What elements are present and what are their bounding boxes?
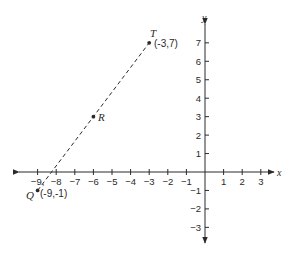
- x-tick-label: 1: [221, 176, 226, 187]
- y-tick-label: −2: [190, 203, 201, 214]
- x-tick-label: −2: [162, 176, 173, 187]
- x-tick-label: −6: [88, 176, 99, 187]
- x-tick-label: −3: [144, 176, 155, 187]
- y-tick-label: 3: [196, 111, 201, 122]
- y-ticks: −3−2−11234567: [190, 37, 209, 233]
- x-axis-label: x: [276, 167, 282, 178]
- x-tick-label: 3: [258, 176, 263, 187]
- x-tick-label: −7: [69, 176, 80, 187]
- point-q-coord: (-9,-1): [40, 188, 67, 199]
- point-r-dot: [92, 115, 96, 119]
- x-tick-label: 2: [240, 176, 245, 187]
- y-tick-label: 4: [196, 93, 201, 104]
- y-tick-label: 1: [196, 148, 201, 159]
- y-tick-label: 6: [196, 56, 201, 67]
- x-tick-label: −4: [125, 176, 136, 187]
- y-tick-label: 7: [196, 37, 201, 48]
- point-t-coord: (-3,7): [154, 38, 178, 49]
- coordinate-plane: −9,−8−7−6−5−4−3−2−1123 −3−2−11234567 x y…: [0, 0, 298, 260]
- x-tick-label: −9,: [31, 176, 44, 187]
- y-tick-label: 5: [196, 74, 201, 85]
- y-tick-label: −3: [190, 222, 201, 233]
- plot-svg: −9,−8−7−6−5−4−3−2−1123 −3−2−11234567 x y…: [0, 0, 298, 260]
- x-tick-label: −5: [107, 176, 118, 187]
- y-axis-label: y: [201, 12, 207, 23]
- x-tick-label: −8: [51, 176, 62, 187]
- y-tick-label: 2: [196, 130, 201, 141]
- point-q-dot: [36, 189, 40, 193]
- point-t-dot: [147, 41, 151, 45]
- point-q-label: Q: [26, 189, 34, 201]
- point-r-label: R: [97, 111, 105, 123]
- y-tick-label: −1: [190, 185, 201, 196]
